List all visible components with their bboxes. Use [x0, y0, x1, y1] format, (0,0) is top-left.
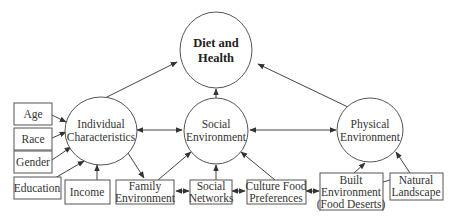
box-social-networks: Social Networks — [189, 180, 234, 204]
diet-and-health-label-line2: Health — [198, 51, 234, 65]
built-label-line2: Environment — [321, 186, 382, 198]
education-label: Education — [14, 182, 61, 194]
edge-physical-outcome — [258, 64, 350, 108]
box-race: Race — [14, 128, 52, 150]
natural-label-line2: Landscape — [391, 186, 440, 199]
box-built-environment: Built Environment (Food Deserts) — [317, 173, 386, 211]
box-education: Education — [14, 177, 61, 199]
individual-label-line2: Characteristics — [67, 131, 136, 143]
edge-family-social — [158, 152, 191, 180]
edge-culture-social — [241, 152, 275, 180]
edge-individual-outcome — [103, 62, 177, 99]
natural-label-line1: Natural — [399, 174, 433, 186]
diet-health-diagram: Diet and Health Individual Characteristi… — [0, 0, 458, 221]
built-label-line3: (Food Deserts) — [317, 198, 386, 211]
diet-and-health-label-line1: Diet and — [193, 36, 239, 50]
physical-env-label-line2: Environment — [340, 131, 401, 143]
box-age: Age — [14, 103, 52, 125]
physical-env-label-line1: Physical — [351, 118, 390, 131]
edge-built-natural — [383, 180, 390, 182]
edge-age-individual — [52, 115, 66, 122]
box-natural-landscape: Natural Landscape — [390, 173, 443, 200]
built-label-line1: Built — [339, 174, 363, 186]
family-label-line2: Environment — [115, 192, 176, 204]
social-env-label-line2: Environment — [186, 131, 247, 143]
networks-label-line1: Social — [197, 180, 226, 192]
individual-label-line1: Individual — [77, 118, 124, 130]
edge-education-individual — [55, 161, 84, 178]
edge-built-physical — [354, 163, 365, 173]
culture-label-line2: Preferences — [249, 192, 303, 204]
box-culture-food-preferences: Culture Food Preferences — [245, 180, 306, 204]
gender-label: Gender — [16, 156, 50, 168]
node-physical-environment: Physical Environment — [337, 98, 403, 162]
box-gender: Gender — [14, 151, 52, 173]
race-label: Race — [22, 133, 45, 145]
age-label: Age — [23, 108, 42, 121]
node-diet-and-health: Diet and Health — [180, 12, 252, 88]
networks-label-line2: Networks — [189, 192, 234, 204]
box-family-environment: Family Environment — [115, 180, 176, 204]
edge-natural-physical — [396, 152, 410, 173]
edge-race-individual — [52, 132, 66, 138]
node-individual-characteristics: Individual Characteristics — [65, 97, 137, 165]
box-income: Income — [65, 180, 110, 204]
social-env-label-line1: Social — [202, 118, 231, 130]
edge-individual-family — [126, 150, 144, 178]
income-label: Income — [70, 186, 104, 198]
node-social-environment: Social Environment — [184, 98, 248, 164]
culture-label-line1: Culture Food — [245, 180, 306, 192]
edge-gender-individual — [52, 147, 71, 160]
